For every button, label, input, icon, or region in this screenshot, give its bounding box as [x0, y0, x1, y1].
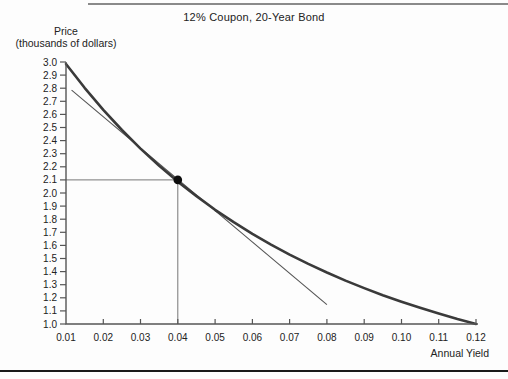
x-axis-title: Annual Yield: [431, 347, 489, 359]
y-axis-tick-label: 3.0: [43, 57, 57, 68]
y-axis-tick-label: 2.9: [43, 70, 57, 81]
x-axis-tick-label: 0.10: [392, 332, 412, 343]
x-axis-tick-label: 0.03: [131, 332, 151, 343]
x-axis-tick-label: 0.08: [317, 332, 337, 343]
y-axis-tick-label: 1.5: [43, 253, 57, 264]
bottom-rule: [0, 370, 508, 372]
y-axis-tick-label: 2.5: [43, 122, 57, 133]
x-axis-tick-label: 0.06: [243, 332, 263, 343]
y-axis-tick-label: 1.2: [43, 292, 57, 303]
axes-lines: [66, 62, 478, 324]
y-axis-tick-label: 2.1: [43, 174, 57, 185]
y-axis-tick-label: 1.3: [43, 279, 57, 290]
y-axis-tick-label: 2.4: [43, 135, 57, 146]
y-axis-tick-label: 1.1: [43, 305, 57, 316]
price-yield-curve: [66, 64, 476, 324]
price-yield-chart-canvas: 3.02.92.82.72.62.52.42.32.22.12.01.91.81…: [0, 0, 508, 379]
x-axis-tick-label: 0.09: [354, 332, 374, 343]
x-axis-tick-label: 0.11: [429, 332, 448, 343]
y-axis-tick-label: 2.0: [43, 188, 57, 199]
x-axis-tick-label: 0.12: [466, 332, 486, 343]
bond-price-yield-figure: 12% Coupon, 20-Year Bond Price (thousand…: [0, 0, 508, 379]
y-axis-tick-label: 2.7: [43, 96, 57, 107]
point-marker: [174, 176, 183, 185]
y-axis-tick-label: 2.2: [43, 161, 57, 172]
y-axis-tick-label: 1.6: [43, 240, 57, 251]
x-axis-tick-label: 0.04: [168, 332, 188, 343]
x-axis-tick-label: 0.02: [94, 332, 114, 343]
y-axis-tick-label: 1.8: [43, 214, 57, 225]
x-axis-tick-label: 0.01: [56, 332, 76, 343]
y-axis-tick-label: 1.4: [43, 266, 57, 277]
x-axis-tick-label: 0.07: [280, 332, 300, 343]
y-axis-tick-label: 2.3: [43, 148, 57, 159]
y-axis-tick-label: 1.9: [43, 201, 57, 212]
y-axis-tick-label: 2.6: [43, 109, 57, 120]
y-axis-tick-label: 1.7: [43, 227, 57, 238]
y-axis-tick-label: 2.8: [43, 83, 57, 94]
y-axis-tick-label: 1.0: [43, 319, 57, 330]
x-axis-tick-label: 0.05: [205, 332, 225, 343]
